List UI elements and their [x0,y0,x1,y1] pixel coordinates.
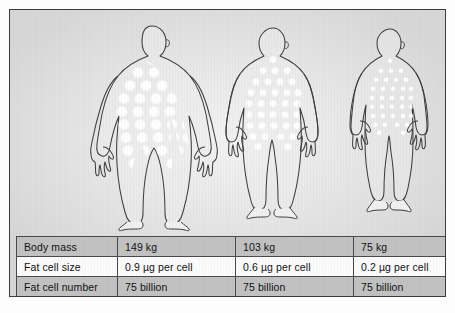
table-row-fat-cell-number: Fat cell number 75 billion 75 billion 75… [17,277,447,297]
cell-body-mass-obese: 149 kg [118,237,236,257]
lean-body-outline [350,29,428,212]
stats-table-wrapper: Body mass 149 kg 103 kg 75 kg Fat cell s… [16,236,440,297]
cell-fat-cell-size-overweight: 0.6 µg per cell [236,257,354,277]
table-row-fat-cell-size: Fat cell size 0.9 µg per cell 0.6 µg per… [17,257,447,277]
cell-fat-cell-number-overweight: 75 billion [236,277,354,297]
stats-table: Body mass 149 kg 103 kg 75 kg Fat cell s… [16,236,446,297]
row-label-fat-cell-number: Fat cell number [17,277,118,297]
table-row-body-mass: Body mass 149 kg 103 kg 75 kg [17,237,447,257]
row-label-fat-cell-size: Fat cell size [17,257,118,277]
lean-figure [335,16,445,232]
overweight-figure [213,16,333,232]
cell-fat-cell-size-lean: 0.2 µg per cell [354,257,447,277]
cell-fat-cell-number-lean: 75 billion [354,277,447,297]
cell-fat-cell-number-obese: 75 billion [118,277,236,297]
body-figures-group [10,10,445,232]
figure-root: Body mass 149 kg 103 kg 75 kg Fat cell s… [0,0,455,313]
cell-fat-cell-size-obese: 0.9 µg per cell [118,257,236,277]
row-label-body-mass: Body mass [17,237,118,257]
obese-figure [72,16,232,232]
illustration-panel: Body mass 149 kg 103 kg 75 kg Fat cell s… [9,9,446,297]
cell-body-mass-overweight: 103 kg [236,237,354,257]
cell-body-mass-lean: 75 kg [354,237,447,257]
